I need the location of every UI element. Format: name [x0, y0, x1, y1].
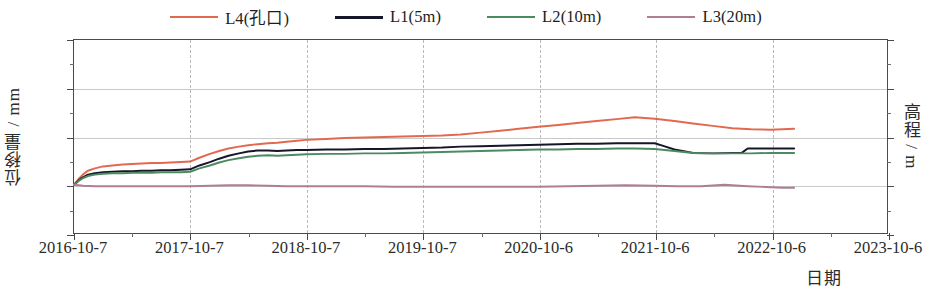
- x-axis-tick-minor: [831, 233, 832, 237]
- x-axis-tick-minor: [714, 233, 715, 237]
- legend-item-1[interactable]: L4(孔口): [170, 5, 289, 29]
- legend-item-2[interactable]: L1(5m): [335, 7, 441, 27]
- y-axis-tick-major: [67, 235, 74, 236]
- y-axis-title-left: 位移量 / mm: [2, 39, 24, 234]
- x-axis-tick-label: 2018‐10‐7: [271, 238, 340, 258]
- x-axis-tick-label: 2016‐10‐7: [39, 238, 108, 258]
- y-axis-tick-major: [67, 138, 74, 139]
- legend-swatch-line-icon: [170, 16, 218, 18]
- legend-item-label: L4(孔口): [225, 5, 289, 29]
- x-axis-title: 日期: [806, 264, 842, 289]
- chart-legend: L4(孔口)L1(5m)L2(10m)L3(20m): [0, 4, 932, 30]
- y-axis-tick-minor: [887, 113, 891, 114]
- y-axis-title-right-text: 高程 / m: [899, 103, 924, 169]
- series-line-2: [74, 143, 794, 184]
- legend-item-label: L2(10m): [542, 7, 601, 27]
- legend-swatch-line-icon: [647, 16, 695, 18]
- plot-area: [73, 39, 888, 234]
- x-axis-tick-minor: [249, 233, 250, 237]
- y-axis-tick-minor: [887, 211, 891, 212]
- y-axis-tick-major: [67, 40, 74, 41]
- legend-item-3[interactable]: L2(10m): [487, 7, 601, 27]
- y-axis-tick-minor: [887, 162, 891, 163]
- x-axis-tick-minor: [482, 233, 483, 237]
- y-axis-tick-major: [887, 40, 894, 41]
- y-axis-tick-minor: [887, 64, 891, 65]
- legend-item-label: L3(20m): [702, 7, 761, 27]
- x-axis-tick-label: 2019‐10‐7: [388, 238, 457, 258]
- legend-item-label: L1(5m): [390, 7, 441, 27]
- x-axis-tick-label: 2022‐10‐6: [737, 238, 806, 258]
- x-axis-tick-label: 2021‐10‐6: [621, 238, 690, 258]
- series-line-3: [74, 149, 794, 185]
- y-axis-tick-major: [67, 186, 74, 187]
- x-axis-tick-minor: [598, 233, 599, 237]
- series-line-4: [74, 185, 794, 188]
- y-axis-tick-major: [887, 186, 894, 187]
- legend-swatch-line-icon: [487, 16, 535, 18]
- chart-figure: L4(孔口)L1(5m)L2(10m)L3(20m) 位移量 / mm 高程 /…: [0, 0, 932, 290]
- y-axis-title-left-text: 位移量 / mm: [1, 87, 26, 186]
- x-axis-tick-label: 2023‐10‐6: [854, 238, 923, 258]
- legend-item-4[interactable]: L3(20m): [647, 7, 761, 27]
- legend-swatch-line-icon: [335, 16, 383, 19]
- x-axis-tick-minor: [132, 233, 133, 237]
- y-axis-tick-major: [887, 89, 894, 90]
- y-axis-title-right: 高程 / m: [899, 39, 923, 234]
- series-lines: [74, 40, 887, 233]
- y-axis-tick-major: [67, 89, 74, 90]
- x-axis-tick-minor: [365, 233, 366, 237]
- x-axis-tick-label: 2017‐10‐7: [155, 238, 224, 258]
- x-axis-tick-label: 2020‐10‐6: [504, 238, 573, 258]
- y-axis-tick-major: [887, 138, 894, 139]
